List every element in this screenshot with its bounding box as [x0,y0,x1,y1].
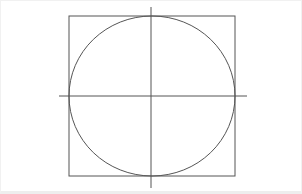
circle-in-square-diagram [1,1,302,194]
diagram-canvas [0,0,302,194]
